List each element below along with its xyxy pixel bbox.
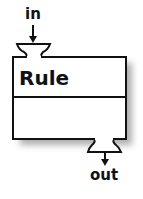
- input-port-label: in: [25, 7, 41, 22]
- component-title: Rule: [19, 66, 69, 90]
- rule-diagram: [0, 0, 143, 199]
- input-port: [17, 44, 50, 57]
- output-port-label: out: [90, 168, 118, 183]
